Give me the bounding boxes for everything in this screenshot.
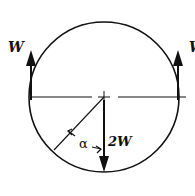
center-force-label: 2W — [107, 134, 133, 149]
angle-label: α — [79, 136, 88, 151]
right-force-label: W — [189, 39, 195, 55]
right-force-arrow-icon — [173, 50, 183, 100]
left-force-label: W — [8, 39, 25, 55]
left-force-arrow-icon — [26, 50, 36, 100]
free-body-diagram: W W 2W α — [0, 0, 195, 196]
